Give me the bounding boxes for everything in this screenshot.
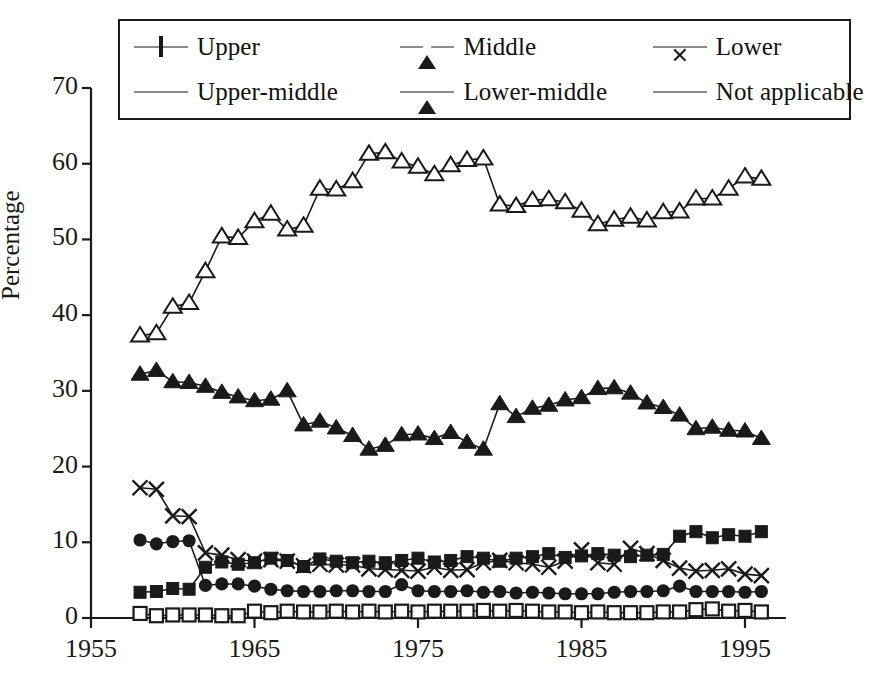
- marker-filled-square: [706, 532, 718, 544]
- marker-filled-circle: [199, 579, 212, 592]
- marker-open-triangle: [327, 181, 345, 196]
- marker-filled-square: [657, 548, 669, 560]
- marker-open-triangle: [311, 180, 329, 195]
- marker-filled-circle: [133, 533, 146, 546]
- marker-filled-circle: [444, 585, 457, 598]
- marker-filled-circle: [411, 584, 424, 597]
- y-tick-label: 70: [24, 71, 78, 101]
- marker-filled-triangle: [409, 426, 427, 441]
- marker-filled-triangle: [442, 424, 460, 439]
- marker-filled-circle: [722, 585, 735, 598]
- marker-filled-circle: [313, 585, 326, 598]
- marker-filled-square: [363, 555, 375, 567]
- marker-filled-circle: [689, 585, 702, 598]
- marker-open-square: [297, 605, 310, 618]
- marker-open-square: [232, 609, 245, 622]
- marker-filled-square: [150, 586, 162, 598]
- marker-filled-square: [543, 548, 555, 560]
- marker-filled-circle: [673, 580, 686, 593]
- marker-open-square: [477, 604, 490, 617]
- x-tick-label: 1985: [527, 634, 637, 664]
- marker-filled-triangle: [589, 380, 607, 395]
- marker-open-square: [428, 605, 441, 618]
- marker-filled-square: [592, 548, 604, 560]
- marker-filled-circle: [215, 577, 228, 590]
- marker-filled-circle: [559, 587, 572, 600]
- y-tick-label: 10: [24, 525, 78, 555]
- marker-open-triangle: [474, 150, 492, 165]
- marker-filled-square: [396, 554, 408, 566]
- marker-filled-circle: [297, 585, 310, 598]
- marker-filled-triangle: [262, 391, 280, 406]
- marker-open-square: [444, 605, 457, 618]
- marker-open-square: [575, 606, 588, 619]
- marker-filled-circle: [591, 587, 604, 600]
- marker-filled-circle: [248, 580, 261, 593]
- x-tick-label: 1995: [690, 634, 800, 664]
- marker-filled-triangle: [752, 430, 770, 445]
- marker-filled-square: [281, 554, 293, 566]
- y-tick-label: 50: [24, 222, 78, 252]
- marker-filled-circle: [166, 535, 179, 548]
- x-tick-label: 1955: [36, 634, 146, 664]
- series-middle: [131, 144, 770, 342]
- marker-filled-square: [379, 557, 391, 569]
- marker-filled-triangle: [474, 441, 492, 456]
- marker-filled-circle: [608, 586, 621, 599]
- marker-filled-square: [576, 550, 588, 562]
- marker-open-square: [755, 605, 768, 618]
- marker-open-triangle: [376, 144, 394, 159]
- marker-open-square: [166, 608, 179, 621]
- y-axis-title: Percentage: [0, 190, 25, 300]
- marker-open-triangle: [654, 204, 672, 219]
- marker-filled-square: [445, 554, 457, 566]
- marker-open-triangle: [491, 196, 509, 211]
- marker-filled-square: [298, 561, 310, 573]
- series-lower-middle: [131, 362, 770, 455]
- marker-open-triangle: [573, 202, 591, 217]
- marker-filled-square: [477, 552, 489, 564]
- marker-open-triangle: [262, 205, 280, 220]
- marker-filled-triangle: [376, 437, 394, 452]
- marker-filled-triangle: [491, 395, 509, 410]
- marker-filled-square: [739, 530, 751, 542]
- marker-filled-triangle: [344, 427, 362, 442]
- marker-open-square: [134, 607, 147, 620]
- marker-open-square: [215, 609, 228, 622]
- marker-filled-square: [216, 556, 228, 568]
- marker-filled-circle: [362, 585, 375, 598]
- marker-filled-triangle: [458, 434, 476, 449]
- marker-filled-square: [526, 551, 538, 563]
- marker-filled-square: [461, 551, 473, 563]
- marker-open-triangle: [523, 192, 541, 207]
- marker-open-square: [248, 605, 261, 618]
- marker-filled-square: [674, 530, 686, 542]
- marker-filled-triangle: [164, 373, 182, 388]
- marker-filled-circle: [706, 585, 719, 598]
- marker-filled-triangle: [278, 382, 296, 397]
- marker-filled-square: [510, 552, 522, 564]
- marker-filled-circle: [542, 586, 555, 599]
- marker-filled-square: [690, 526, 702, 538]
- marker-filled-circle: [281, 584, 294, 597]
- marker-filled-square: [608, 549, 620, 561]
- marker-filled-square: [167, 582, 179, 594]
- marker-filled-circle: [657, 584, 670, 597]
- marker-filled-circle: [640, 585, 653, 598]
- marker-filled-square: [412, 552, 424, 564]
- marker-filled-circle: [526, 586, 539, 599]
- marker-open-square: [640, 606, 653, 619]
- marker-open-triangle: [540, 191, 558, 206]
- marker-open-square: [559, 605, 572, 618]
- marker-filled-circle: [150, 537, 163, 550]
- marker-open-square: [493, 605, 506, 618]
- marker-open-triangle: [687, 190, 705, 205]
- marker-filled-circle: [264, 583, 277, 596]
- marker-filled-circle: [755, 585, 768, 598]
- y-tick-label: 40: [24, 298, 78, 328]
- marker-filled-square: [625, 551, 637, 563]
- marker-filled-square: [265, 552, 277, 564]
- marker-filled-square: [755, 526, 767, 538]
- marker-filled-triangle: [393, 426, 411, 441]
- marker-filled-square: [134, 586, 146, 598]
